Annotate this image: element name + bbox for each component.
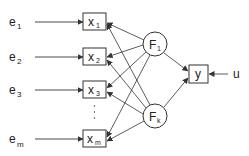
arrow-F1-x1 bbox=[107, 23, 144, 40]
arrow-Fk-xm bbox=[107, 121, 144, 141]
arrow-Fk-x2 bbox=[107, 60, 146, 108]
svg-text:2: 2 bbox=[96, 57, 100, 64]
svg-text:x: x bbox=[88, 50, 94, 64]
x1-box bbox=[83, 13, 106, 30]
svg-text:x: x bbox=[88, 15, 94, 29]
svg-text:e: e bbox=[9, 132, 16, 146]
input-e3-label: e 3 bbox=[9, 83, 22, 99]
svg-text:1: 1 bbox=[96, 22, 100, 29]
x2-box bbox=[83, 48, 106, 65]
svg-text:F: F bbox=[149, 110, 156, 124]
input-e1-label: e 1 bbox=[9, 15, 22, 31]
arrow-F1-x2 bbox=[107, 45, 143, 57]
svg-text:e: e bbox=[9, 15, 16, 29]
arrow-Fk-x3 bbox=[107, 92, 143, 114]
input-arrows bbox=[35, 22, 83, 139]
arrow-F1-y bbox=[164, 53, 188, 71]
diagram-canvas: e 1 e 2 e 3 e m x 1 x 2 x 3 x m bbox=[0, 0, 249, 156]
input-e2-label: e 2 bbox=[9, 50, 22, 66]
svg-text:e: e bbox=[9, 83, 16, 97]
svg-text:3: 3 bbox=[17, 90, 22, 99]
input-em-label: e m bbox=[9, 132, 24, 149]
y-label: y bbox=[195, 67, 201, 81]
svg-text:m: m bbox=[17, 140, 24, 149]
svg-text:x: x bbox=[88, 83, 94, 97]
arrow-Fk-x1 bbox=[107, 24, 150, 105]
ellipsis-dots bbox=[94, 105, 95, 118]
state-boxes bbox=[83, 13, 106, 147]
svg-text:m: m bbox=[95, 139, 101, 146]
svg-text:1: 1 bbox=[157, 45, 161, 52]
svg-text:x: x bbox=[87, 132, 93, 146]
arrow-F1-x3 bbox=[107, 52, 146, 88]
x3-box bbox=[83, 81, 106, 98]
svg-text:e: e bbox=[9, 50, 16, 64]
svg-text:k: k bbox=[157, 117, 161, 124]
svg-text:1: 1 bbox=[17, 22, 22, 31]
svg-text:3: 3 bbox=[96, 90, 100, 97]
svg-text:2: 2 bbox=[17, 57, 22, 66]
u-label: u bbox=[233, 67, 240, 81]
svg-text:F: F bbox=[149, 38, 156, 52]
network-diagram: e 1 e 2 e 3 e m x 1 x 2 x 3 x m bbox=[0, 0, 249, 156]
arrow-Fk-y bbox=[164, 78, 188, 107]
